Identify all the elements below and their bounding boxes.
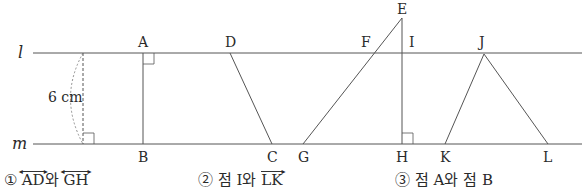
point-h-label: H (396, 149, 408, 165)
option-2-number: ② (198, 171, 213, 189)
line-ad-notation: ◂AD▸ (22, 171, 45, 189)
segment-jl (484, 54, 548, 144)
option-2[interactable]: ② 점 I와 LK▸ (198, 168, 282, 189)
right-angle-mark-h (402, 133, 413, 144)
ray-lk-notation: LK▸ (261, 171, 282, 189)
point-l-label: L (543, 149, 552, 165)
parallel-lines-diagram: l m 6 cm A B D C F G E I H J K L (0, 0, 582, 191)
point-f-label: F (361, 34, 371, 50)
segment-kj (445, 54, 484, 144)
segment-ge (303, 18, 402, 144)
point-b-label: B (138, 149, 148, 165)
right-angle-mark-a (143, 53, 154, 64)
line-m-label: m (12, 134, 27, 153)
point-k-label: K (440, 149, 451, 165)
option-3[interactable]: ③ 점 A와 점 B (395, 168, 493, 189)
right-angle-mark-distance (83, 133, 94, 144)
line-gh-notation: ◂GH▸ (63, 171, 88, 189)
point-j-label: J (477, 34, 485, 50)
segment-dc (230, 53, 272, 144)
point-d-label: D (225, 34, 236, 50)
option-1-number: ① (4, 171, 17, 189)
point-i-label: I (409, 34, 415, 50)
option-1[interactable]: ① ◂AD▸와 ◂GH▸ (4, 168, 89, 189)
option-2-text: 점 I와 (218, 171, 261, 189)
point-c-label: C (267, 149, 278, 165)
line-l-label: l (18, 43, 23, 62)
point-a-label: A (137, 34, 149, 50)
option-3-number: ③ (395, 171, 410, 189)
point-e-label: E (397, 1, 407, 17)
option-3-text: 점 A와 점 B (415, 171, 493, 189)
point-g-label: G (298, 149, 309, 165)
distance-label: 6 cm (48, 89, 82, 105)
